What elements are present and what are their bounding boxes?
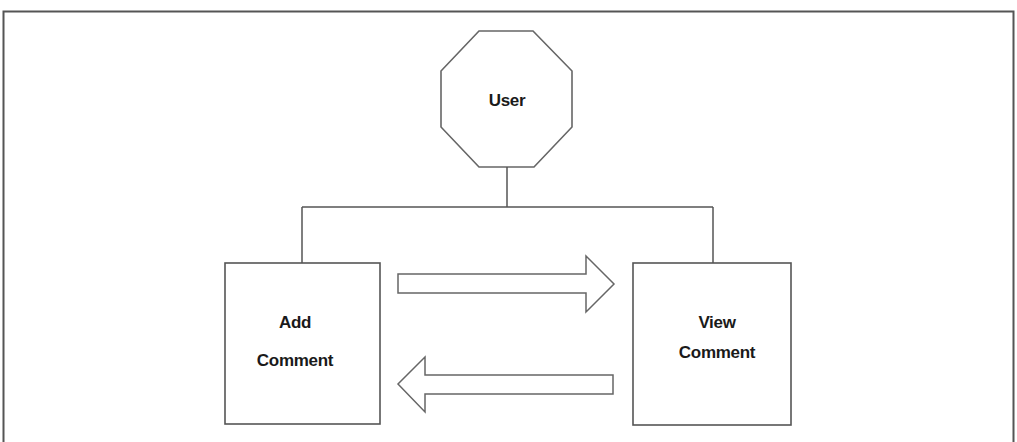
add-comment-label-line1: Add: [279, 313, 311, 332]
node-user: User: [441, 31, 572, 167]
node-user-label: User: [489, 91, 526, 110]
add-comment-label-line2: Comment: [257, 351, 334, 370]
view-comment-label-line2: Comment: [679, 343, 756, 362]
arrow-left-icon: [398, 357, 613, 412]
add-comment-box: [225, 263, 380, 424]
node-add-comment: Add Comment: [225, 263, 380, 424]
arrow-right-icon: [398, 256, 614, 312]
node-view-comment: View Comment: [633, 263, 791, 425]
diagram-canvas: User Add Comment View Comment: [0, 0, 1017, 442]
user-connector: [302, 167, 713, 263]
view-comment-label-line1: View: [698, 313, 736, 332]
